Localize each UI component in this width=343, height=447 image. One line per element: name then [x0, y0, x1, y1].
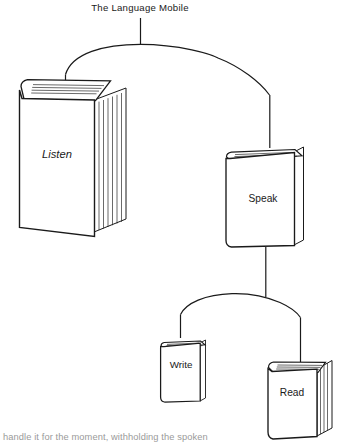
book-read: Read — [268, 361, 332, 440]
book-label-listen: Listen — [42, 148, 72, 160]
book-label-read: Read — [280, 387, 305, 398]
listen-front-cover — [20, 90, 95, 237]
page-caption-clip: handle it for the moment, withholding th… — [0, 432, 343, 447]
write-front-cover — [161, 343, 201, 402]
bottom-arc — [181, 294, 301, 318]
book-speak: Speak — [226, 147, 304, 247]
read-front-cover — [268, 369, 317, 440]
book-write: Write — [161, 340, 206, 402]
book-listen: Listen — [20, 80, 127, 237]
book-label-write: Write — [170, 359, 193, 370]
page-caption-text: handle it for the moment, withholding th… — [3, 432, 343, 443]
book-label-speak: Speak — [249, 193, 279, 204]
language-mobile-figure: The Language Mobile — [0, 0, 343, 447]
read-page-block — [317, 361, 332, 437]
mobile-diagram-canvas: The Language Mobile — [0, 0, 343, 447]
speak-page-block — [294, 147, 304, 245]
figure-title: The Language Mobile — [91, 2, 189, 13]
